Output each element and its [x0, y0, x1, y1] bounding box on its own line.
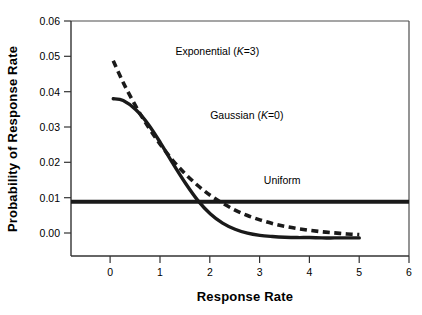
y-tick-labels: 0.06 0.05 0.04 0.03 0.02 0.01 0.00	[40, 15, 61, 239]
x-axis-title: Response Rate	[197, 289, 294, 304]
gaussian-label: Gaussian (K=0)	[210, 109, 283, 121]
series-exponential-line	[113, 61, 359, 235]
series-group	[71, 61, 409, 238]
y-tick-label: 0.00	[40, 227, 61, 239]
y-tick-label: 0.04	[40, 86, 61, 98]
x-tick-label: 0	[107, 266, 113, 278]
y-tick-label: 0.03	[40, 121, 61, 133]
y-tick-label: 0.05	[40, 50, 61, 62]
x-tick-label: 1	[157, 266, 163, 278]
x-tick-label: 6	[406, 266, 412, 278]
y-tick-label: 0.01	[40, 192, 61, 204]
x-tick-label: 3	[257, 266, 263, 278]
y-tick-label: 0.06	[40, 15, 61, 27]
x-tick-labels: 0 1 2 3 4 5 6	[107, 266, 412, 278]
y-tick-label: 0.02	[40, 156, 61, 168]
x-tick-label: 4	[306, 266, 312, 278]
exponential-label: Exponential (K=3)	[175, 45, 259, 57]
uniform-label: Uniform	[264, 174, 301, 186]
y-axis-title: Probability of Response Rate	[5, 46, 20, 232]
x-axis-ticks	[110, 256, 409, 263]
chart-canvas: 0.06 0.05 0.04 0.03 0.02 0.01 0.00 0 1 2…	[0, 0, 422, 315]
x-tick-label: 2	[207, 266, 213, 278]
y-axis-ticks	[64, 21, 71, 233]
chart-figure: 0.06 0.05 0.04 0.03 0.02 0.01 0.00 0 1 2…	[0, 0, 422, 315]
x-tick-label: 5	[356, 266, 362, 278]
